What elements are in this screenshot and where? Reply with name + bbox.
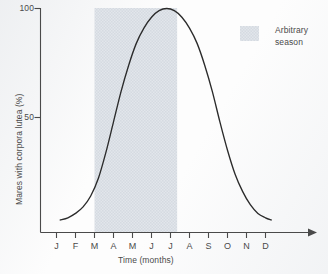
- x-tick-label-jan: J: [50, 241, 64, 252]
- x-tick-label-mar: M: [88, 241, 102, 252]
- legend-label-arbitrary-season: Arbitrary season: [275, 25, 308, 48]
- x-tick-label-dec: D: [259, 241, 273, 252]
- x-tick-label-aug: A: [183, 241, 197, 252]
- x-tick-label-feb: F: [69, 241, 83, 252]
- legend-swatch-arbitrary-season: [240, 26, 259, 41]
- legend-label-line-2: season: [275, 37, 308, 49]
- x-tick-label-nov: N: [240, 241, 254, 252]
- x-axis-label: Time (months): [118, 255, 174, 266]
- arrow-right-icon: [308, 229, 317, 237]
- shaded-region-arbitrary-season: [95, 8, 178, 232]
- x-tick-label-sep: S: [202, 241, 216, 252]
- x-tick-label-oct: O: [221, 241, 235, 252]
- y-tick-label-100: 100: [8, 3, 34, 14]
- legend-label-line-1: Arbitrary: [275, 25, 308, 37]
- x-tick-label-jun: J: [145, 241, 159, 252]
- x-tick-marks: [57, 233, 266, 239]
- x-tick-label-apr: A: [107, 241, 121, 252]
- y-axis-label: Mares with corpora lutea (%): [14, 94, 25, 205]
- chart-figure: 100 50 Mares with corpora lutea (%) J F …: [0, 0, 328, 274]
- x-tick-label-may: M: [126, 241, 140, 252]
- x-tick-label-jul: J: [164, 241, 178, 252]
